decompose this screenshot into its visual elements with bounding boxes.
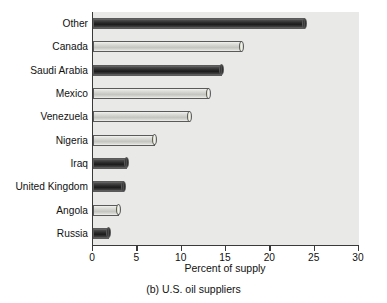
x-tick-mark [225, 246, 226, 251]
bar-end-cap [116, 204, 121, 215]
category-label: Angola [0, 205, 88, 216]
figure-caption: (b) U.S. oil suppliers [0, 283, 387, 295]
x-tick-mark [181, 246, 182, 251]
bar-row [93, 111, 359, 122]
category-label: Canada [0, 41, 88, 52]
category-label: Venezuela [0, 111, 88, 122]
bar-row [93, 88, 359, 99]
bar-end-cap [206, 88, 211, 99]
x-tick-mark [358, 246, 359, 251]
bar-mexico [93, 88, 209, 99]
bar-row [93, 228, 359, 239]
bar-end-cap [106, 227, 111, 238]
bar-end-cap [302, 18, 307, 29]
bar-row [93, 18, 359, 29]
bar-row [93, 65, 359, 76]
bar-row [93, 205, 359, 216]
category-label: Other [0, 18, 88, 29]
x-tick-mark [269, 246, 270, 251]
category-label: Russia [0, 228, 88, 239]
bar-end-cap [121, 181, 126, 192]
bar-saudi-arabia [93, 65, 222, 76]
bar-end-cap [152, 134, 157, 145]
chart-figure: OtherCanadaSaudi ArabiaMexicoVenezuelaNi… [0, 0, 387, 303]
x-axis-title: Percent of supply [92, 262, 358, 274]
category-label: Iraq [0, 158, 88, 169]
bar-united-kingdom [93, 181, 124, 192]
bar-end-cap [239, 41, 244, 52]
category-label: Nigeria [0, 135, 88, 146]
bar-row [93, 158, 359, 169]
bar-nigeria [93, 135, 155, 146]
bar-row [93, 181, 359, 192]
bar-canada [93, 41, 242, 52]
category-label: United Kingdom [0, 181, 88, 192]
bar-iraq [93, 158, 127, 169]
category-axis-labels: OtherCanadaSaudi ArabiaMexicoVenezuelaNi… [0, 12, 88, 245]
x-tick-mark [136, 246, 137, 251]
bar-row [93, 41, 359, 52]
bar-end-cap [219, 64, 224, 75]
plot-area [92, 12, 359, 246]
x-tick-mark [92, 246, 93, 251]
bar-other [93, 18, 305, 29]
x-tick-mark [314, 246, 315, 251]
category-label: Mexico [0, 88, 88, 99]
bar-end-cap [187, 111, 192, 122]
bar-row [93, 135, 359, 146]
bar-venezuela [93, 111, 190, 122]
bar-end-cap [124, 157, 129, 168]
category-label: Saudi Arabia [0, 65, 88, 76]
